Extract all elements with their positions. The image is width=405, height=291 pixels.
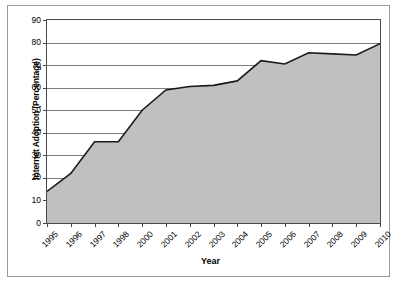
x-axis-tick-mark	[71, 223, 72, 227]
x-axis-tick-mark	[380, 223, 381, 227]
chart-container: Internet Adoption (Percentage) 010203040…	[8, 6, 391, 278]
plot-area	[46, 19, 381, 224]
x-axis-tick-mark	[214, 223, 215, 227]
x-axis-tick-mark	[356, 223, 357, 227]
series-area-fill	[47, 44, 380, 223]
x-axis-tick-mark	[166, 223, 167, 227]
y-axis-tick-label: 30	[17, 151, 41, 160]
y-axis-tick-label: 90	[17, 16, 41, 25]
y-axis-tick-label: 50	[17, 106, 41, 115]
x-axis-tick-mark	[95, 223, 96, 227]
y-axis-tick-label: 20	[17, 173, 41, 182]
chart-frame: Internet Adoption (Percentage) 010203040…	[7, 5, 390, 277]
x-axis-tick-mark	[142, 223, 143, 227]
y-axis-tick-label: 40	[17, 128, 41, 137]
x-axis-tick-mark	[190, 223, 191, 227]
x-axis-tick-mark	[332, 223, 333, 227]
y-axis-tick-label: 70	[17, 61, 41, 70]
area-series	[47, 20, 380, 223]
y-axis-title: Internet Adoption (Percentage)	[31, 29, 41, 209]
y-axis-tick-label: 0	[17, 219, 41, 228]
x-axis-tick-mark	[118, 223, 119, 227]
x-axis-tick-mark	[309, 223, 310, 227]
x-axis-tick-mark	[285, 223, 286, 227]
x-axis-tick-mark	[237, 223, 238, 227]
y-axis-tick-label: 80	[17, 38, 41, 47]
y-axis-tick-label: 10	[17, 196, 41, 205]
y-axis-tick-label: 60	[17, 83, 41, 92]
x-axis-title: Year	[38, 256, 383, 266]
x-axis-tick-mark	[47, 223, 48, 227]
x-axis-tick-mark	[261, 223, 262, 227]
